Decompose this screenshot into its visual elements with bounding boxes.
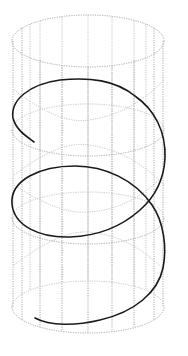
diagonal-arcs — [14, 80, 164, 270]
helix-cylinder-figure — [0, 0, 188, 356]
vertical-gridlines — [13, 15, 163, 333]
